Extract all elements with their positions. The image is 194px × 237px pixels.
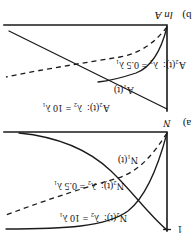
panel-b: ln A b) A₁(t) A₂(t): λ₂ = 10 λ₁ A₂(t): λ… (0, 0, 194, 117)
panel-a-annotation-n2-fast: N₂(t): λ₂ = 10 λ₁ (59, 212, 127, 224)
panel-a-annotation-n1: N₁(t) (118, 154, 138, 166)
panel-a: 1 N a) N₁(t) N₂(t): λ₂ = 10 λ₁ N₂(t): λ₂… (0, 117, 194, 237)
panel-b-axis-label: ln A (155, 10, 173, 22)
panel-b-annotation-a2-fast: A₂(t): λ₂ = 10 λ₁ (42, 102, 110, 114)
panel-a-ytick-label: 1 (178, 224, 183, 235)
panel-b-annotation-a1: A₁(t) (114, 84, 134, 96)
panel-a-axis-label: N (163, 118, 172, 130)
figure-root: 1 N a) N₁(t) N₂(t): λ₂ = 10 λ₁ N₂(t): λ₂… (0, 0, 194, 237)
panel-b-annotation-a2-slow: A₂(t): λ₂ = 0.5 λ₁ (116, 59, 186, 71)
panel-b-curve-a2-fast (98, 27, 167, 82)
panel-a-canvas: 1 N a) N₁(t) N₂(t): λ₂ = 10 λ₁ N₂(t): λ₂… (0, 117, 194, 237)
panel-a-annotation-n2-slow: N₂(t): λ₂ = 0.5 λ₁ (54, 180, 124, 192)
panel-b-canvas: ln A b) A₁(t) A₂(t): λ₂ = 10 λ₁ A₂(t): λ… (0, 0, 194, 117)
panel-a-curve-n2-slow (6, 133, 167, 215)
panel-b-label: b) (182, 9, 192, 22)
panel-a-label: a) (182, 117, 191, 130)
